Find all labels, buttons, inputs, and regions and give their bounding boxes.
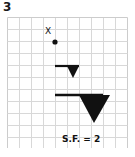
enlarged-flag-triangle	[79, 95, 110, 123]
center-of-enlargement-label: X	[45, 27, 51, 36]
original-flag-triangle	[67, 66, 79, 78]
coordinate-grid: X S.F. = 2	[7, 17, 128, 148]
center-of-enlargement-point	[52, 39, 57, 44]
worksheet-figure: 3 X S.F. = 2	[0, 0, 135, 157]
scale-factor-label: S.F. = 2	[62, 134, 100, 144]
figure-shapes	[7, 17, 128, 148]
question-number: 3	[3, 0, 11, 14]
